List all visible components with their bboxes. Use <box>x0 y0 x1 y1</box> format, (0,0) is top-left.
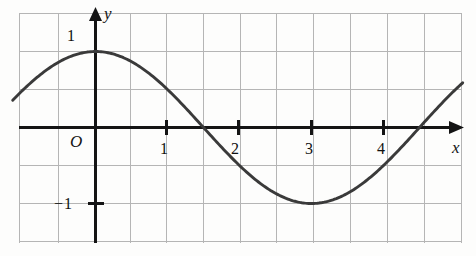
y-axis <box>89 7 102 243</box>
x-tick-label-2: 2 <box>231 141 239 157</box>
graph-figure: y x O 1 −1 1 2 3 4 <box>0 0 476 256</box>
x-tick-label-4: 4 <box>377 141 385 157</box>
x-tick-label-1: 1 <box>160 141 168 157</box>
y-tick-label-neg1: −1 <box>54 196 73 212</box>
origin-label: O <box>70 133 82 150</box>
x-tick-label-3: 3 <box>305 141 313 157</box>
y-axis-label: y <box>104 5 112 22</box>
x-axis <box>19 121 464 134</box>
x-axis-label: x <box>452 139 460 156</box>
y-tick-label-1: 1 <box>67 28 75 44</box>
